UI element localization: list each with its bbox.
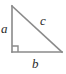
label-leg-a: a xyxy=(1,22,8,35)
hypotenuse-c-line xyxy=(12,6,62,52)
label-hypotenuse-c: c xyxy=(40,14,46,27)
label-leg-b: b xyxy=(32,57,39,70)
right-angle-marker-icon xyxy=(12,46,18,52)
right-triangle-figure: a b c xyxy=(0,0,66,74)
